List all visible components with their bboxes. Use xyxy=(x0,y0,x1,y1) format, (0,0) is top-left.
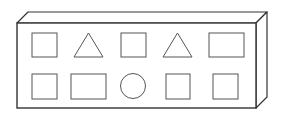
box-front-face xyxy=(17,23,256,108)
box-top-face xyxy=(17,12,267,23)
shape-block-diagram xyxy=(0,0,283,115)
block-box xyxy=(17,12,267,108)
box-side-face xyxy=(256,12,267,108)
